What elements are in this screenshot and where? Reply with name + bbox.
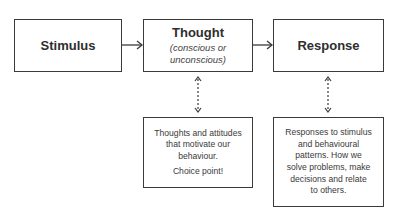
stimulus-node: Stimulus xyxy=(14,19,122,72)
arrow-thought-response xyxy=(252,41,272,49)
arrow-stimulus-thought xyxy=(122,41,142,49)
note-line: Responses to stimulus xyxy=(285,127,371,139)
note-line: and behavioural xyxy=(285,139,371,151)
note-line: Thoughts and attitudes xyxy=(154,128,241,140)
thought-note-box: Thoughts and attitudes that motivate our… xyxy=(143,117,253,188)
note-line: decisions and relate xyxy=(285,174,371,186)
thought-subtitle-line1: (conscious or xyxy=(170,42,227,54)
response-title: Response xyxy=(297,38,359,53)
dashed-arrow-response-note xyxy=(325,77,331,112)
note-line: behaviour. xyxy=(154,151,241,163)
response-note-text: Responses to stimulus and behavioural pa… xyxy=(279,127,377,197)
note-line: solve problems, make xyxy=(285,162,371,174)
thought-note-text: Thoughts and attitudes that motivate our… xyxy=(148,128,247,177)
note-line: that motivate our xyxy=(154,139,241,151)
note-line: to others. xyxy=(285,185,371,197)
thought-subtitle-line2: unconscious) xyxy=(170,54,226,66)
response-node: Response xyxy=(273,19,384,72)
response-note-box: Responses to stimulus and behavioural pa… xyxy=(273,117,384,207)
note-line: patterns. How we xyxy=(285,150,371,162)
stimulus-title: Stimulus xyxy=(41,38,96,53)
thought-title: Thought xyxy=(172,25,224,40)
thought-node: Thought (conscious or unconscious) xyxy=(143,19,253,72)
choice-point-label: Choice point! xyxy=(154,166,241,178)
dashed-arrow-thought-note xyxy=(195,77,201,112)
